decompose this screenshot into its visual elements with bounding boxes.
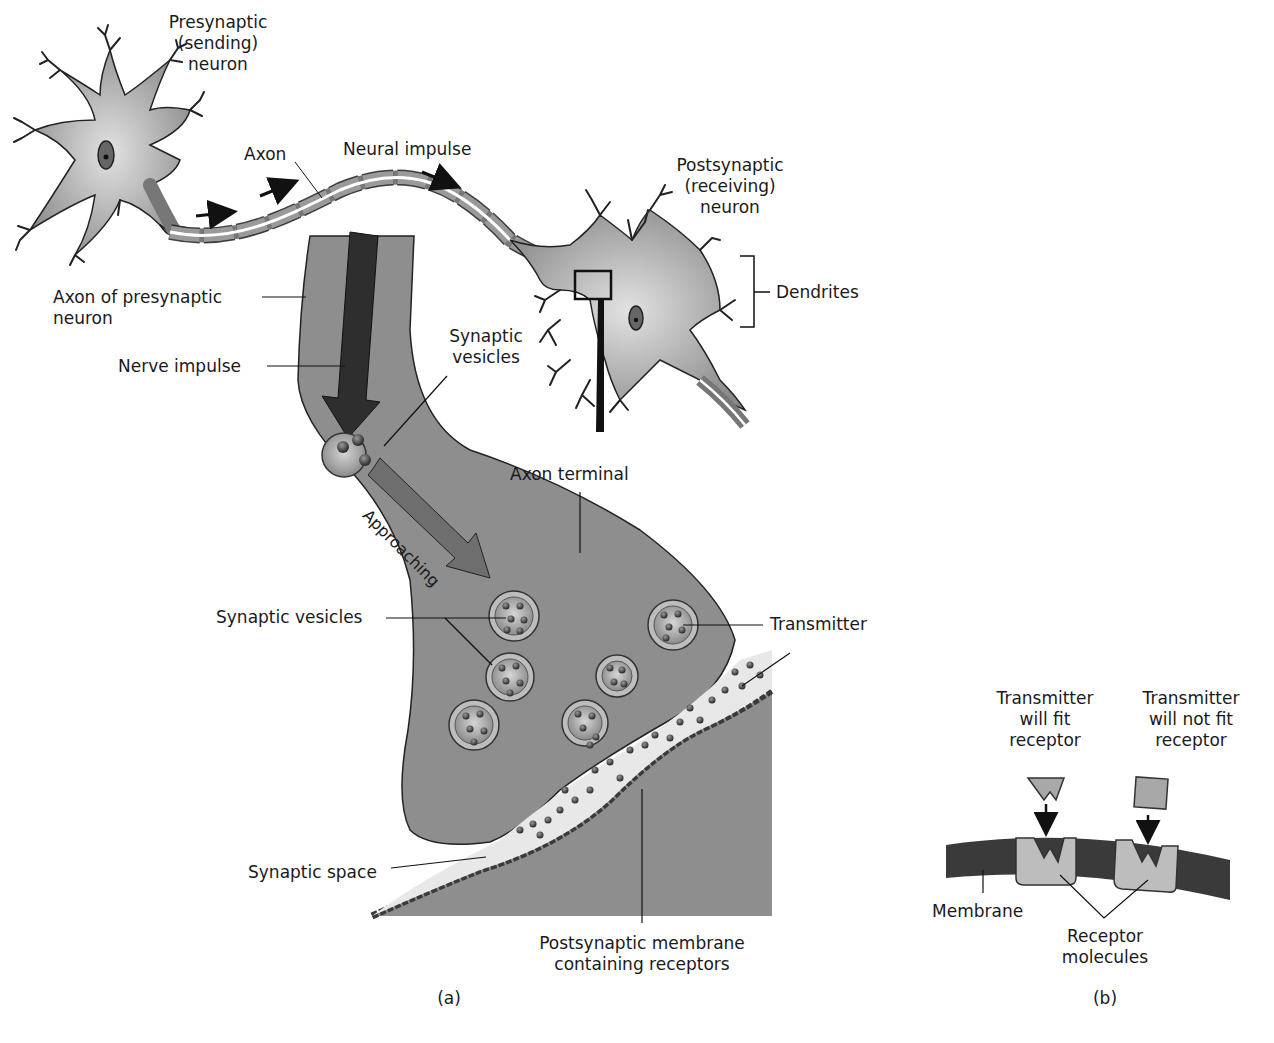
label-line: containing receptors bbox=[520, 954, 764, 975]
label-line: molecules bbox=[1050, 947, 1160, 968]
label-line: vesicles bbox=[440, 347, 532, 368]
label-line: Receptor bbox=[1050, 926, 1160, 947]
label-line: will fit bbox=[980, 709, 1110, 730]
caption-b: (b) bbox=[1080, 988, 1130, 1009]
label-postsynaptic-membrane: Postsynaptic membrane containing recepto… bbox=[520, 933, 764, 975]
label-axon-terminal: Axon terminal bbox=[510, 464, 629, 485]
label-line: (sending) bbox=[168, 33, 268, 54]
label-line: Transmitter bbox=[1126, 688, 1256, 709]
label-transmitter-not-fit: Transmitter will not fit receptor bbox=[1126, 688, 1256, 751]
label-synaptic-vesicles: Synaptic vesicles bbox=[216, 607, 362, 628]
label-line: (receiving) bbox=[660, 176, 800, 197]
label-line: Postsynaptic bbox=[660, 155, 800, 176]
label-line: Transmitter bbox=[980, 688, 1110, 709]
label-presynaptic-neuron: Presynaptic (sending) neuron bbox=[168, 12, 268, 75]
panel-b-receptors bbox=[946, 777, 1230, 918]
postsynaptic-neuron bbox=[510, 185, 745, 432]
label-line: Axon of presynaptic bbox=[53, 287, 222, 308]
label-line: Postsynaptic membrane bbox=[520, 933, 764, 954]
label-receptor-molecules: Receptor molecules bbox=[1050, 926, 1160, 968]
label-nerve-impulse: Nerve impulse bbox=[118, 356, 241, 377]
label-line: receptor bbox=[1126, 730, 1256, 751]
label-line: neuron bbox=[53, 308, 222, 329]
label-line: neuron bbox=[168, 54, 268, 75]
label-transmitter: Transmitter bbox=[770, 614, 867, 635]
dendrites-bracket bbox=[740, 256, 770, 327]
label-line: receptor bbox=[980, 730, 1110, 751]
label-dendrites: Dendrites bbox=[776, 282, 859, 303]
label-axon: Axon bbox=[244, 144, 286, 165]
label-line: neuron bbox=[660, 197, 800, 218]
label-line: Synaptic bbox=[440, 326, 532, 347]
label-synaptic-vesicles-top: Synaptic vesicles bbox=[440, 326, 532, 368]
caption-a: (a) bbox=[424, 988, 474, 1009]
label-transmitter-fit: Transmitter will fit receptor bbox=[980, 688, 1110, 751]
label-neural-impulse: Neural impulse bbox=[343, 139, 471, 160]
label-line: will not fit bbox=[1126, 709, 1256, 730]
label-axon-of-presynaptic-neuron: Axon of presynaptic neuron bbox=[53, 287, 222, 329]
synapse-diagram bbox=[0, 0, 1274, 1043]
label-line: Presynaptic bbox=[168, 12, 268, 33]
label-synaptic-space: Synaptic space bbox=[248, 862, 377, 883]
label-postsynaptic-neuron: Postsynaptic (receiving) neuron bbox=[660, 155, 800, 218]
label-membrane: Membrane bbox=[932, 901, 1023, 922]
